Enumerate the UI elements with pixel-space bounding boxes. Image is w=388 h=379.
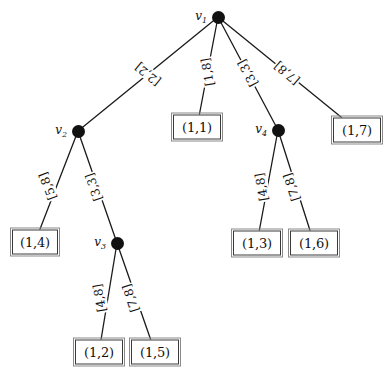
tree-edges-canvas [0, 0, 388, 379]
tree-leaf-l16: (1,6) [290, 231, 338, 256]
tree-node-v2 [72, 125, 85, 138]
tree-node-label-v2: v2 [55, 123, 71, 139]
tree-leaf-l14: (1,4) [12, 230, 58, 255]
tree-node-v1 [212, 11, 225, 24]
tree-leaf-l15: (1,5) [131, 340, 179, 365]
tree-node-v4 [272, 124, 285, 137]
tree-leaf-l13: (1,3) [233, 231, 281, 256]
tree-node-label-v3: v3 [94, 235, 110, 251]
tree-leaf-l12: (1,2) [75, 340, 123, 365]
tree-leaf-l17: (1,7) [333, 118, 381, 143]
tree-node-v3 [111, 237, 124, 250]
tree-diagram: [2,2][1,8][3,3][7,8][5,8][3,3][4,8][7,8]… [0, 0, 388, 379]
tree-node-label-v4: v4 [255, 122, 271, 138]
tree-leaf-l11: (1,1) [173, 115, 221, 140]
tree-node-label-v1: v1 [195, 9, 211, 25]
